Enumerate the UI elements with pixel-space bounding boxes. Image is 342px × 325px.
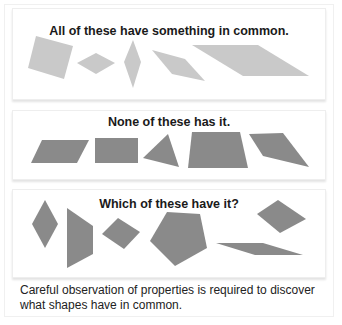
trapezoid-shape	[188, 132, 248, 168]
flat-parallelogram-shape	[216, 243, 303, 255]
set-test-shapes	[32, 200, 306, 268]
set-examples	[28, 36, 309, 88]
shapes-canvas	[0, 0, 342, 325]
triangle-shape	[143, 134, 179, 167]
long-parallelogram-shape	[192, 45, 309, 76]
rhombus-shape	[257, 200, 306, 233]
pentagon-shape	[150, 212, 207, 266]
parallelogram-shape	[31, 140, 89, 163]
slanted-rhombus-shape	[152, 50, 205, 81]
vertical-rhombus-shape	[32, 200, 58, 248]
rectangle-shape	[95, 138, 138, 163]
caption-text: Careful observation of properties is req…	[20, 283, 320, 313]
small-rhombus-shape	[77, 53, 115, 74]
irregular-quadrilateral-shape	[249, 133, 309, 167]
tall-trapezoid-shape	[67, 208, 93, 268]
tall-thin-rhombus-shape	[124, 40, 141, 88]
tilted-square-shape	[28, 36, 73, 79]
set-non-examples	[31, 132, 309, 168]
tilted-square-shape	[102, 218, 140, 249]
